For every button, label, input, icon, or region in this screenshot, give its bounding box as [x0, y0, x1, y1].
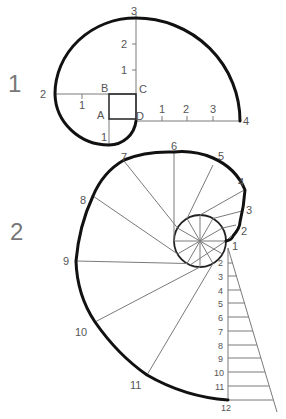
scale-label-10: 10: [214, 368, 224, 378]
square-label-b: B: [101, 82, 108, 94]
left-tick-label-1: 1: [79, 99, 85, 111]
point-label-11: 11: [130, 379, 141, 391]
figure-1: 1 3 2 4 1 2 1 1 1 2 3 B C A D: [8, 5, 249, 145]
point-label-6: 6: [171, 140, 177, 152]
point-label-2: 2: [241, 225, 247, 237]
scale-label-8: 8: [218, 341, 223, 351]
vertical-tick-label-1: 1: [121, 64, 127, 76]
point-label-1: 1: [232, 240, 238, 252]
figure-2-label: 2: [10, 218, 23, 245]
scale-label-3: 3: [218, 272, 223, 282]
vertical-tick-label-2: 2: [121, 38, 127, 50]
spiral-construction-diagram: 1 3 2 4 1 2 1 1 1 2 3 B C A D 2: [0, 0, 286, 419]
square-abcd: [109, 94, 136, 119]
right-tick-label-1: 1: [159, 103, 165, 115]
point-label-9: 9: [63, 255, 69, 267]
point-label-5: 5: [218, 150, 224, 162]
square-label-d: D: [136, 110, 144, 122]
square-label-a: A: [97, 109, 105, 121]
square-label-c: C: [139, 83, 147, 95]
figure-1-label: 1: [8, 70, 21, 97]
point-label-1: 1: [101, 131, 107, 143]
point-label-3: 3: [131, 5, 137, 17]
figure-1-spiral-curve: [55, 18, 240, 145]
right-tick-label-3: 3: [210, 103, 216, 115]
scale-label-2: 2: [218, 258, 223, 268]
scale-label-6: 6: [218, 313, 223, 323]
scale-label-11: 11: [215, 382, 224, 392]
point-label-4: 4: [243, 115, 249, 127]
scale-label-4: 4: [218, 286, 223, 296]
right-tick-label-2: 2: [183, 103, 189, 115]
point-label-3: 3: [246, 204, 252, 216]
point-label-7: 7: [121, 151, 127, 163]
scale-label-12: 12: [221, 403, 231, 413]
scale-label-5: 5: [218, 299, 223, 309]
figure-2: 2: [10, 140, 277, 413]
point-label-8: 8: [80, 194, 86, 206]
scale-label-9: 9: [218, 354, 223, 364]
point-label-10: 10: [75, 326, 87, 338]
scale-label-7: 7: [218, 327, 223, 337]
length-scale: [228, 248, 277, 412]
point-label-4: 4: [238, 176, 244, 188]
point-label-2: 2: [40, 88, 46, 100]
